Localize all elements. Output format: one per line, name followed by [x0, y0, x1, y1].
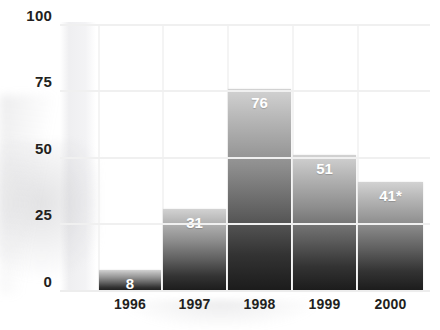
- gridline-0-baseline: [60, 290, 430, 292]
- gridline-50: [60, 157, 430, 159]
- bar-1998: 76: [228, 89, 291, 291]
- x-axis-tick-2000: 2000: [358, 296, 423, 312]
- y-axis-tick-100: 100: [4, 7, 52, 24]
- plot-area: 8 31 76 51 41*: [60, 25, 430, 291]
- gridline-75: [60, 90, 430, 92]
- bar-1997: 31: [163, 209, 226, 291]
- y-axis-tick-25: 25: [4, 206, 52, 223]
- bar-1996: 8: [99, 270, 161, 291]
- y-axis-tick-50: 50: [4, 140, 52, 157]
- bar-chart: 100 75 50 25 0 8 31 76 51 41*: [0, 0, 440, 330]
- bar-2000: 41*: [358, 182, 423, 291]
- x-axis-tick-1998: 1998: [228, 296, 291, 312]
- x-axis-tick-1999: 1999: [293, 296, 356, 312]
- x-axis-tick-1996: 1996: [99, 296, 161, 312]
- gridline-100: [60, 24, 430, 26]
- bar-value-1999: 51: [293, 160, 356, 177]
- x-axis-tick-1997: 1997: [163, 296, 226, 312]
- y-axis-tick-0: 0: [4, 273, 52, 290]
- y-axis-tick-75: 75: [4, 73, 52, 90]
- bar-value-1998: 76: [228, 94, 291, 111]
- background-smudge-left-band: [0, 95, 60, 295]
- bar-value-2000: 41*: [358, 187, 423, 204]
- gridline-25: [60, 223, 430, 225]
